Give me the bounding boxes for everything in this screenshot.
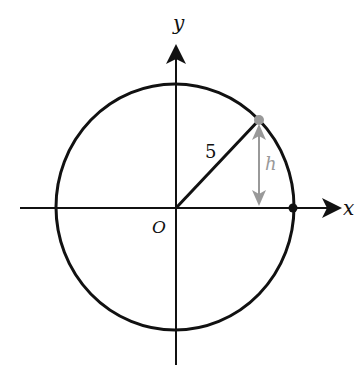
radius-label: 5 (205, 141, 216, 162)
origin-label: O (152, 217, 166, 237)
x-intercept-point (289, 204, 298, 213)
point-on-circle (254, 115, 264, 125)
radius-line (176, 120, 259, 208)
height-label: h (265, 153, 277, 174)
unit-circle-diagram: y x O 5 h (0, 0, 363, 380)
y-axis-label: y (172, 11, 185, 35)
x-axis-label: x (343, 196, 354, 220)
